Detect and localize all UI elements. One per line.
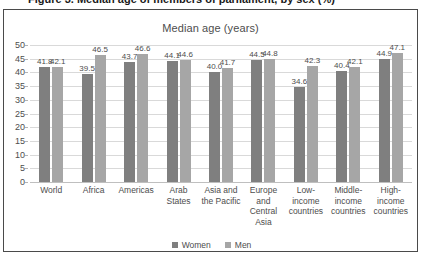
bar-women-8 [379,59,390,182]
y-axis-tick-mark [25,182,28,183]
legend-label: Women [182,241,211,250]
bar-women-6 [294,87,305,182]
bar-men-0 [52,67,63,182]
figure-caption-strip: Figure 3. Median age of members of parli… [0,0,424,8]
bar-women-3 [167,61,178,182]
bar-value-label: 42.1 [50,58,66,66]
bar-men-1 [95,55,106,182]
x-axis-label-line: World [31,185,72,196]
x-axis-label-line: countries [328,206,369,217]
x-axis-label-line: countries [285,206,326,217]
x-axis-category-4: Asia andthe Pacific [200,185,241,206]
legend-item-men[interactable]: Men [225,241,252,250]
x-axis-label-line: Low- [285,185,326,196]
chart-title: Median age (years) [4,22,417,34]
x-axis-category-5: EuropeandCentralAsia [243,185,284,227]
chart-container: Median age (years) 05101520253035404550 … [3,9,418,252]
bar-value-label: 44.6 [177,51,193,59]
bar-men-5 [264,59,275,182]
y-axis-tick-label: 20 [15,123,25,132]
y-axis-tick-label: 45 [15,54,25,63]
x-axis-category-1: Africa [73,185,114,196]
y-axis-tick-mark [25,59,28,60]
x-axis-label-line: income [285,196,326,207]
y-axis-tick-mark [25,100,28,101]
bar-men-8 [392,53,403,182]
y-axis: 05101520253035404550 [4,45,28,182]
bar-men-6 [307,66,318,182]
bar-men-7 [349,67,360,182]
x-axis-category-3: ArabStates [158,185,199,206]
x-axis-category-0: World [31,185,72,196]
y-axis-tick-label: 40 [15,68,25,77]
y-axis-tick-mark [25,72,28,73]
legend-swatch-icon [225,242,231,248]
y-axis-tick-label: 25 [15,109,25,118]
x-axis-label-line: income [328,196,369,207]
bar-women-5 [251,60,262,182]
x-axis-category-2: Americas [115,185,156,196]
x-axis-label-line: Europe [243,185,284,196]
x-axis-category-7: Middle-incomecountries [328,185,369,217]
y-axis-tick-label: 35 [15,82,25,91]
bar-value-label: 42.1 [347,58,363,66]
x-axis-label-line: Asia and [200,185,241,196]
legend-label: Men [235,241,252,250]
y-axis-tick-label: 30 [15,95,25,104]
plot-area: 41.842.139.546.543.746.644.144.640.041.7… [30,45,412,182]
y-axis-tick-mark [25,168,28,169]
x-axis-label-line: High- [370,185,411,196]
bar-value-label: 41.7 [220,59,236,67]
bar-women-7 [336,71,347,182]
bar-value-label: 39.5 [79,65,95,73]
bar-women-0 [39,67,50,182]
y-axis-tick-label: 10 [15,150,25,159]
bar-value-label: 43.7 [122,53,138,61]
y-axis-tick-label: 50 [15,41,25,50]
bar-men-2 [137,54,148,182]
y-axis-tick-mark [25,45,28,46]
x-axis-label-line: Africa [73,185,114,196]
y-axis-tick-mark [25,127,28,128]
bar-value-label: 34.6 [292,78,308,86]
bar-men-3 [180,60,191,182]
bar-value-label: 44.8 [262,50,278,58]
bar-men-4 [222,68,233,182]
x-axis-label-line: Central [243,206,284,217]
x-axis-label-line: income [370,196,411,207]
bar-women-2 [124,62,135,182]
x-axis-label-line: Americas [115,185,156,196]
x-axis-category-8: High-incomecountries [370,185,411,217]
bar-women-1 [82,74,93,182]
bar-value-label: 42.3 [305,57,321,65]
y-axis-tick-mark [25,141,28,142]
legend-item-women[interactable]: Women [172,241,211,250]
x-axis-label-line: States [158,196,199,207]
bars-layer: 41.842.139.546.543.746.644.144.640.041.7… [30,45,412,182]
figure-caption: Figure 3. Median age of members of parli… [28,0,335,5]
x-axis: WorldAfricaAmericasArabStatesAsia andthe… [30,185,412,237]
y-axis-tick-mark [25,155,28,156]
x-axis-label-line: countries [370,206,411,217]
x-axis-label-line: Middle- [328,185,369,196]
bar-value-label: 46.5 [92,46,108,54]
x-axis-label-line: the Pacific [200,196,241,207]
x-axis-label-line: Arab [158,185,199,196]
x-axis-category-6: Low-incomecountries [285,185,326,217]
y-axis-tick-mark [25,114,28,115]
x-axis-label-line: Asia [243,217,284,228]
x-axis-label-line: and [243,196,284,207]
gridline [30,182,412,183]
bar-women-4 [209,72,220,182]
bar-value-label: 46.6 [135,45,151,53]
y-axis-tick-label: 15 [15,136,25,145]
bar-value-label: 47.1 [389,44,405,52]
legend-swatch-icon [172,242,178,248]
y-axis-tick-mark [25,86,28,87]
chart-legend: WomenMen [4,241,419,250]
